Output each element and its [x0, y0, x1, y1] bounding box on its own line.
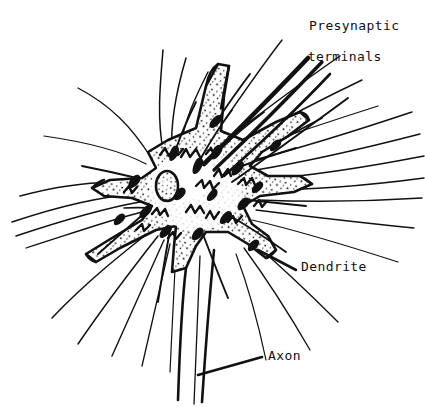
- label-presynaptic-terminals: Presynaptic terminals: [276, 3, 399, 95]
- axon-process: [178, 250, 214, 404]
- label-dendrite: Dendrite: [301, 259, 367, 274]
- neuron-figure: Presynaptic terminals Dendrite Axon: [0, 0, 425, 407]
- label-axon: Axon: [268, 348, 301, 363]
- axon-leader-line: [198, 357, 262, 375]
- label-presynaptic-line1: Presynaptic: [309, 18, 400, 33]
- dendrite-leader-line: [258, 250, 296, 270]
- label-presynaptic-line2: terminals: [276, 49, 399, 64]
